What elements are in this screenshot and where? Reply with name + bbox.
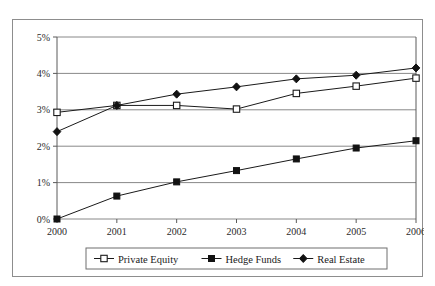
x-axis-tick-label: 2003 (227, 226, 247, 237)
legend-marker-private-equity (101, 255, 107, 261)
data-point-hedge-funds (353, 145, 359, 151)
series-line-hedge-funds (57, 141, 416, 219)
legend-label[interactable]: Hedge Funds (226, 254, 282, 265)
data-point-private-equity (293, 90, 299, 96)
data-point-hedge-funds (234, 168, 240, 174)
line-chart: 0%1%2%3%4%5%2000200120022003200420052006… (13, 20, 424, 278)
x-axis-tick-label: 2006 (406, 226, 424, 237)
y-axis-tick-label: 1% (37, 177, 50, 188)
chart-figure-frame: 0%1%2%3%4%5%2000200120022003200420052006… (12, 19, 423, 277)
x-axis-tick-label: 2001 (107, 226, 127, 237)
data-point-hedge-funds (54, 216, 60, 222)
data-point-real-estate (173, 90, 181, 98)
data-point-private-equity (173, 102, 179, 108)
y-axis-tick-label: 4% (37, 68, 50, 79)
legend-marker-hedge-funds (209, 256, 215, 262)
x-axis-tick-label: 2005 (346, 226, 366, 237)
legend-label[interactable]: Real Estate (317, 254, 365, 265)
data-point-real-estate (352, 71, 360, 79)
data-point-private-equity (413, 75, 419, 81)
data-point-hedge-funds (114, 193, 120, 199)
y-axis-tick-label: 3% (37, 104, 50, 115)
data-point-real-estate (293, 75, 301, 83)
y-axis-tick-label: 2% (37, 141, 50, 152)
x-axis-tick-label: 2002 (167, 226, 187, 237)
x-axis-tick-label: 2004 (286, 226, 306, 237)
data-point-private-equity (353, 83, 359, 89)
y-axis-tick-label: 0% (37, 214, 50, 225)
data-point-real-estate (233, 83, 241, 91)
data-point-private-equity (233, 106, 239, 112)
y-axis-tick-label: 5% (37, 32, 50, 43)
data-point-real-estate (53, 128, 61, 136)
data-point-hedge-funds (293, 156, 299, 162)
legend-label[interactable]: Private Equity (118, 254, 179, 265)
data-point-private-equity (54, 109, 60, 115)
data-point-hedge-funds (174, 179, 180, 185)
data-point-real-estate (412, 64, 420, 72)
data-point-hedge-funds (413, 138, 419, 144)
x-axis-tick-label: 2000 (47, 226, 67, 237)
series-line-real-estate (57, 68, 416, 132)
chart-plot-wrapper: 0%1%2%3%4%5%2000200120022003200420052006… (13, 20, 424, 278)
